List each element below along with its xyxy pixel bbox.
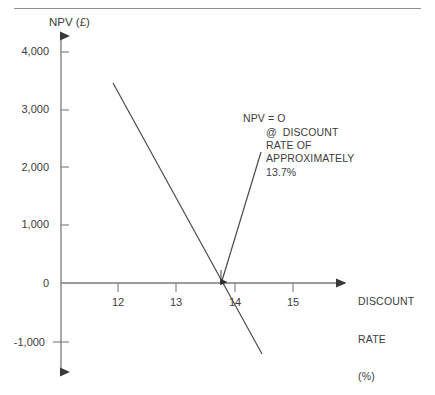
npv-profile-descending-line xyxy=(113,83,262,354)
chart-plot-area xyxy=(0,0,435,395)
npv-discount-rate-chart: NPV (£) 4,000 3,000 2,000 1,000 0 -1,000… xyxy=(0,0,435,395)
annotation-leader-line xyxy=(221,152,261,284)
